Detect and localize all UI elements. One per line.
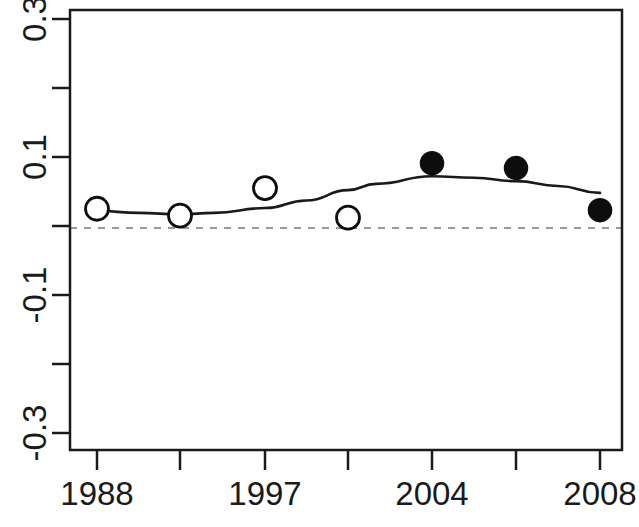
y-axis-ticks — [52, 19, 70, 433]
y-axis-tick-label: 0.1 — [16, 134, 53, 180]
chart-figure: 0.30.1-0.1-0.3 1988199720042008 — [0, 0, 639, 527]
y-axis-tick-label: -0.1 — [16, 267, 53, 324]
x-axis-tick-label: 1988 — [60, 475, 133, 512]
x-axis-tick-labels: 1988199720042008 — [60, 475, 636, 512]
data-point-open — [169, 204, 192, 227]
data-point-filled — [421, 152, 444, 175]
scatter-plot-canvas: 0.30.1-0.1-0.3 1988199720042008 — [0, 0, 639, 527]
data-point-filled — [589, 199, 612, 222]
data-point-open — [254, 177, 277, 200]
data-point-open — [337, 206, 360, 229]
y-axis-tick-labels: 0.30.1-0.1-0.3 — [16, 0, 53, 461]
data-point-open — [86, 197, 109, 220]
x-axis-ticks — [97, 450, 600, 470]
x-axis-tick-label: 2008 — [563, 475, 636, 512]
x-axis-tick-label: 1997 — [228, 475, 301, 512]
x-axis-tick-label: 2004 — [395, 475, 468, 512]
y-axis-tick-label: -0.3 — [16, 405, 53, 462]
y-axis-tick-label: 0.3 — [16, 0, 53, 42]
data-point-filled — [505, 157, 528, 180]
